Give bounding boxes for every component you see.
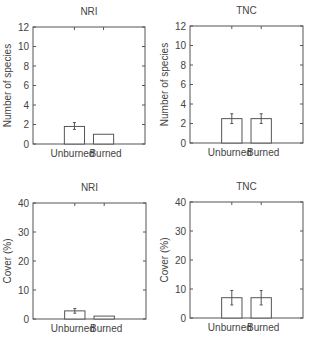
x-category-label: Unburned xyxy=(208,147,252,158)
bar-burned xyxy=(93,134,113,144)
x-category-label: Unburned xyxy=(50,148,94,159)
plot-frame xyxy=(33,27,145,144)
x-category-label: Unburned xyxy=(51,323,95,334)
plot-frame xyxy=(33,203,146,319)
y-tick-label: 12 xyxy=(18,22,30,33)
y-tick-label: 6 xyxy=(180,79,186,90)
chart-title: TNC xyxy=(236,5,257,16)
x-category-label: Burned xyxy=(90,323,122,334)
y-tick-label: 10 xyxy=(175,284,187,295)
y-tick-label: 40 xyxy=(175,197,187,208)
y-axis-label: Number of species xyxy=(2,44,13,127)
y-tick-label: 2 xyxy=(23,119,29,130)
y-tick-label: 20 xyxy=(175,255,187,266)
y-tick-label: 0 xyxy=(23,314,29,325)
chart-title: TNC xyxy=(236,181,257,192)
y-tick-label: 10 xyxy=(18,41,30,52)
y-tick-label: 12 xyxy=(175,21,187,32)
y-tick-label: 4 xyxy=(180,99,186,110)
y-tick-label: 0 xyxy=(180,138,186,149)
y-tick-label: 30 xyxy=(18,227,30,238)
y-tick-label: 2 xyxy=(180,118,186,129)
chart-panel-1: NRI024681012Number of speciesUnburnedBur… xyxy=(2,6,145,159)
x-category-label: Burned xyxy=(89,148,121,159)
y-tick-label: 8 xyxy=(180,60,186,71)
y-axis-label: Cover (%) xyxy=(2,238,13,283)
figure-canvas: NRI024681012Number of speciesUnburnedBur… xyxy=(0,0,312,341)
x-category-label: Unburned xyxy=(208,322,252,333)
x-category-label: Burned xyxy=(247,147,279,158)
bar-burned xyxy=(94,316,114,319)
y-tick-label: 30 xyxy=(175,226,187,237)
y-tick-label: 8 xyxy=(23,61,29,72)
y-tick-label: 40 xyxy=(18,198,30,209)
chart-panel-2: TNC024681012Number of speciesUnburnedBur… xyxy=(159,5,303,158)
plot-frame xyxy=(190,26,303,143)
y-axis-label: Number of species xyxy=(159,43,170,126)
y-tick-label: 20 xyxy=(18,256,30,267)
x-category-label: Burned xyxy=(247,322,279,333)
y-tick-label: 0 xyxy=(180,313,186,324)
chart-panel-3: NRI010203040Cover (%)UnburnedBurned xyxy=(2,182,146,334)
y-tick-label: 10 xyxy=(175,40,187,51)
y-tick-label: 4 xyxy=(23,100,29,111)
y-axis-label: Cover (%) xyxy=(159,237,170,282)
y-tick-label: 6 xyxy=(23,80,29,91)
plot-frame xyxy=(190,202,303,318)
chart-panel-4: TNC010203040Cover (%)UnburnedBurned xyxy=(159,181,303,333)
y-tick-label: 10 xyxy=(18,285,30,296)
y-tick-label: 0 xyxy=(23,139,29,150)
chart-title: NRI xyxy=(80,6,97,17)
chart-title: NRI xyxy=(81,182,98,193)
